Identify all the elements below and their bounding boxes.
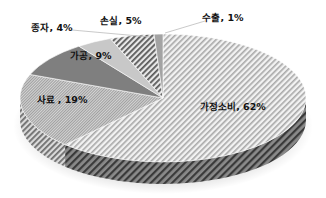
- pie-chart: 가정소비, 62%사료 , 19%가공, 9%종자, 4%손실, 5%수출, 1…: [0, 0, 326, 198]
- data-label-processing: 가공, 9%: [70, 50, 112, 61]
- data-label-export: 수출, 1%: [202, 12, 244, 23]
- leader-line-seed: [72, 30, 150, 37]
- data-label-loss: 손실, 5%: [100, 15, 142, 26]
- data-label-seed: 종자, 4%: [31, 22, 73, 33]
- leader-line-export: [165, 21, 205, 33]
- data-label-home-consumption: 가정소비, 62%: [200, 101, 266, 112]
- data-label-feed: 사료 , 19%: [37, 94, 88, 105]
